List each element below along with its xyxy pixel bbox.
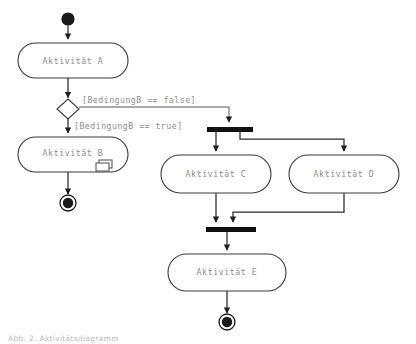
- activity-d-label: Aktivität D: [314, 169, 375, 179]
- node-activity-c[interactable]: Aktivität C: [161, 155, 271, 193]
- activity-c-label: Aktivität C: [186, 169, 247, 179]
- decision-node[interactable]: [57, 99, 79, 119]
- flow-d-to-join: [233, 193, 344, 222]
- diagram-svg: Aktivität A [BedingungB == false] [Bedin…: [0, 0, 416, 344]
- fork-node: [207, 127, 253, 132]
- final-node-left: [60, 195, 76, 211]
- node-activity-a[interactable]: Aktivität A: [18, 43, 128, 78]
- final-node-bottom: [219, 314, 235, 330]
- node-activity-e[interactable]: Aktivität E: [168, 254, 286, 291]
- activity-b-label: Aktivität B: [43, 148, 104, 158]
- activity-e-label: Aktivität E: [197, 267, 258, 277]
- figure-caption: Abb. 2: Aktivitätsdiagramm: [8, 335, 119, 343]
- activity-a-label: Aktivität A: [43, 56, 104, 66]
- flow-fork-to-d: [240, 132, 344, 151]
- node-activity-d[interactable]: Aktivität D: [289, 155, 399, 193]
- node-activity-b[interactable]: Aktivität B: [18, 137, 128, 172]
- activity-diagram-canvas: Aktivität A [BedingungB == false] [Bedin…: [0, 0, 416, 344]
- join-node: [206, 227, 256, 232]
- figure-caption-strip: Abb. 2: Aktivitätsdiagramm: [0, 335, 416, 344]
- initial-node: [61, 12, 74, 25]
- guard-false-label: [BedingungB == false]: [82, 95, 196, 105]
- guard-true-label: [BedingungB == true]: [74, 121, 183, 131]
